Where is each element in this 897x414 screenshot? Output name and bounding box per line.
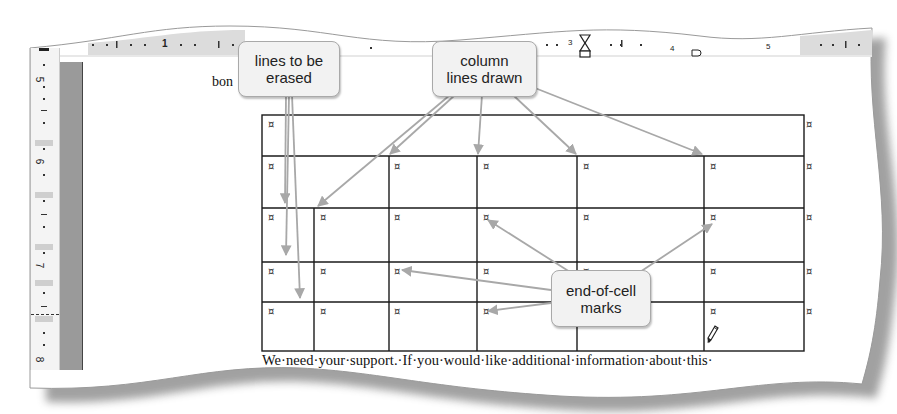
- screenshot-stage: 1 3 4 5 5 6 7 8 bon: [0, 0, 897, 414]
- callout-text: marks: [552, 299, 650, 316]
- callout-text: lines to be: [239, 52, 339, 69]
- callout-column-lines-drawn: column lines drawn: [432, 41, 537, 97]
- callout-text: end-of-cell: [552, 282, 650, 299]
- callout-text: lines drawn: [433, 69, 536, 86]
- callout-text: erased: [239, 69, 339, 86]
- callout-text: column: [433, 52, 536, 69]
- callout-end-of-cell-marks: end-of-cell marks: [551, 270, 651, 327]
- callout-lines-to-be-erased: lines to be erased: [238, 41, 340, 97]
